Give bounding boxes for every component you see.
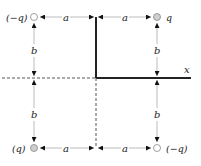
charge-label-bottom-right: (−q) bbox=[166, 143, 188, 154]
label-a: a bbox=[122, 143, 128, 154]
charge-label-bottom-left: (q) bbox=[12, 143, 26, 154]
charge-top-left bbox=[31, 14, 38, 21]
charge-bottom-right bbox=[154, 145, 161, 152]
label-a: a bbox=[63, 12, 69, 23]
charge-label-top-left: (−q) bbox=[6, 12, 28, 23]
charge-label-top-right: q bbox=[166, 12, 172, 23]
label-b: b bbox=[154, 109, 160, 120]
image-charge-diagram: a a a a b b b b x (−q) q (q) (−q) bbox=[0, 0, 201, 166]
label-a: a bbox=[122, 12, 128, 23]
label-b: b bbox=[154, 45, 160, 56]
label-b: b bbox=[31, 109, 37, 120]
charge-bottom-left bbox=[31, 145, 38, 152]
charge-top-right bbox=[154, 14, 161, 21]
label-b: b bbox=[31, 45, 37, 56]
label-a: a bbox=[63, 143, 69, 154]
x-axis-label: x bbox=[184, 64, 190, 75]
